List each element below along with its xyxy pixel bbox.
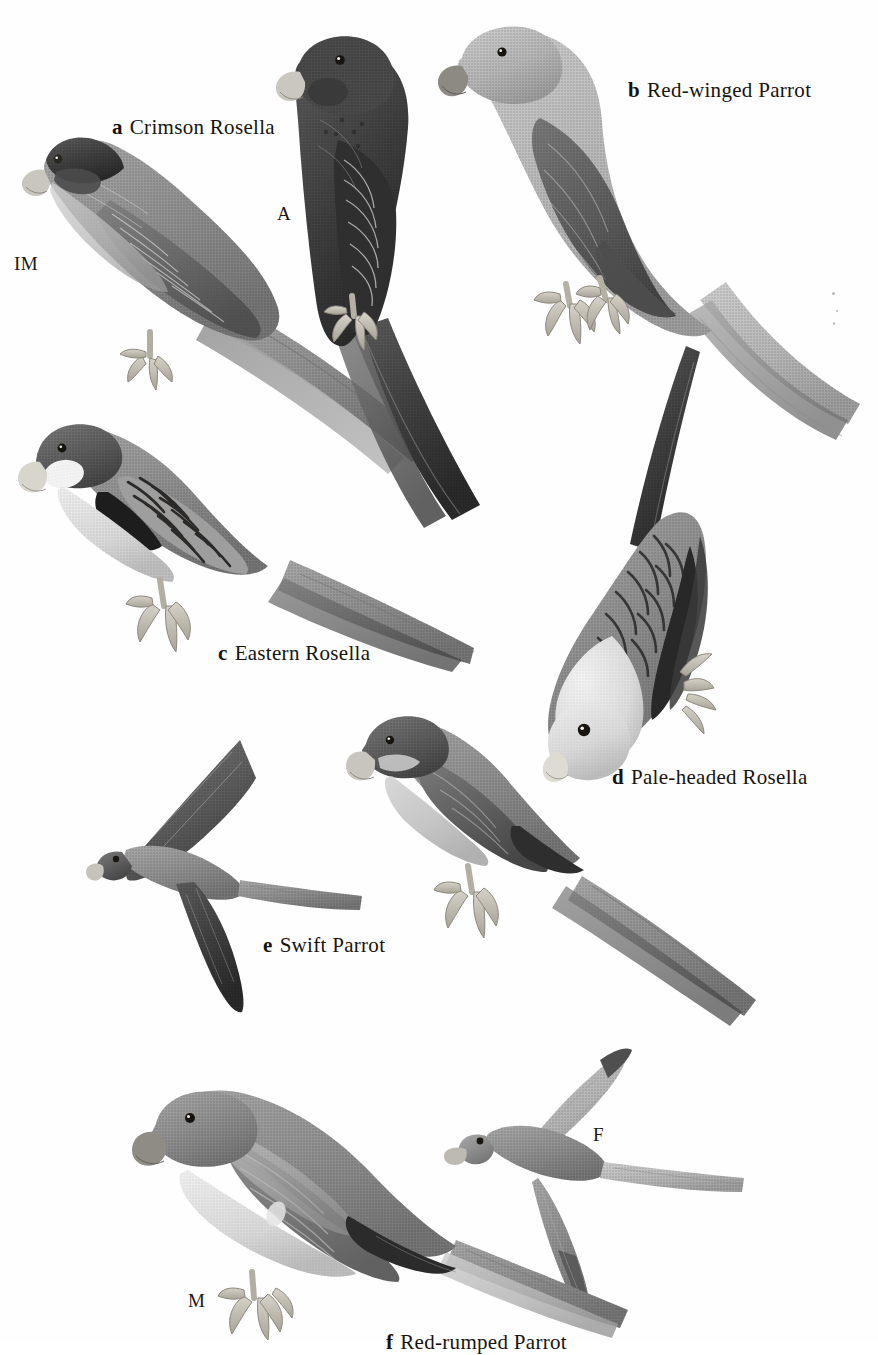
bird-pale-headed-rosella (543, 346, 716, 782)
margin-speck-1 (832, 292, 835, 295)
species-label-crimson-rosella: aCrimson Rosella (112, 115, 275, 140)
species-key-e: e (263, 933, 273, 957)
species-label-pale-headed-rosella: dPale-headed Rosella (612, 765, 808, 790)
sex-label-female: F (593, 1124, 604, 1146)
species-key-b: b (628, 78, 640, 102)
bird-swift-parrot-perched (346, 716, 756, 1026)
bird-eastern-rosella (18, 424, 474, 672)
species-label-red-rumped-parrot: fRed-rumped Parrot (386, 1330, 567, 1355)
bird-crimson-rosella-immature (22, 138, 430, 474)
species-label-red-winged-parrot: bRed-winged Parrot (628, 78, 811, 103)
species-label-eastern-rosella: cEastern Rosella (218, 641, 370, 666)
margin-speck-3 (833, 322, 835, 325)
species-name-e: Swift Parrot (280, 933, 386, 957)
species-name-a: Crimson Rosella (130, 115, 275, 139)
species-name-c: Eastern Rosella (235, 641, 371, 665)
species-name-b: Red-winged Parrot (647, 78, 811, 102)
species-label-swift-parrot: eSwift Parrot (263, 933, 385, 958)
bird-crimson-rosella-adult (276, 36, 480, 528)
species-name-f: Red-rumped Parrot (400, 1330, 567, 1354)
age-label-adult: A (277, 203, 291, 225)
species-name-d: Pale-headed Rosella (631, 765, 808, 789)
species-key-a: a (112, 115, 123, 139)
species-key-d: d (612, 765, 624, 789)
bird-swift-parrot-flight (86, 740, 362, 1012)
bird-red-rumped-parrot-male (132, 1091, 628, 1340)
age-label-immature: IM (14, 253, 38, 275)
bird-red-rumped-parrot-female (444, 1048, 744, 1316)
species-key-f: f (386, 1330, 393, 1354)
sex-label-male: M (188, 1290, 205, 1312)
species-key-c: c (218, 641, 228, 665)
margin-speck-2 (836, 310, 838, 312)
